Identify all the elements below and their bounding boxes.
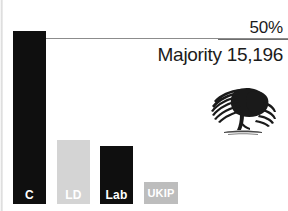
bar-ukip: UKIP (144, 182, 178, 204)
bar-c-rect (13, 31, 46, 204)
bar-ld: LD (57, 140, 90, 204)
bar-lab-label: Lab (100, 189, 133, 202)
bars-group: C LD Lab UKIP (0, 0, 288, 211)
election-bar-chart: 50% Majority 15,196 (0, 0, 288, 211)
bar-c: C (13, 31, 46, 204)
bar-lab: Lab (100, 146, 133, 204)
bar-c-label: C (13, 189, 46, 202)
bar-ukip-label: UKIP (144, 187, 178, 200)
bar-ld-label: LD (57, 189, 90, 202)
